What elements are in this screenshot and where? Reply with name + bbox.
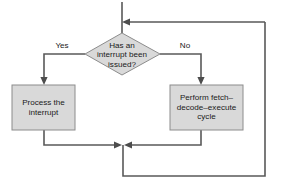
process-right-line-2: decode–execute [177,103,237,112]
connector-yes-branch [44,54,85,78]
flowchart-diagram: Has an interrupt been issued? Process th… [0,0,282,190]
arrowhead-merge-from-left [114,141,122,148]
connector-process-left-exit [44,130,115,145]
decision-line-1: Has an [109,41,135,50]
process-left-line-1: Process the [22,98,65,107]
flowchart-canvas: Has an interrupt been issued? Process th… [0,0,282,190]
arrowhead-feedback-top [122,18,130,25]
arrowhead-into-process-right [197,77,204,85]
branch-label-no: No [180,41,191,50]
connector-no-branch [160,54,201,78]
process-right-line-1: Perform fetch– [180,93,234,102]
branch-label-yes: Yes [55,41,68,50]
arrowhead-into-process-left [40,77,47,85]
arrowhead-merge-from-right [124,141,132,148]
decision-line-3: issued? [108,60,136,69]
process-left-line-2: interrupt [29,108,59,117]
connector-process-right-exit [131,130,201,145]
decision-line-2: interrupt been [97,50,147,59]
process-right-line-3: cycle [197,112,216,121]
